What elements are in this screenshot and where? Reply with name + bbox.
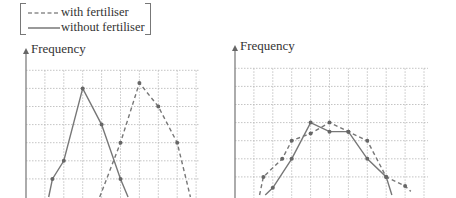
right-frequency-chart — [232, 45, 428, 198]
data-point-marker — [271, 186, 275, 190]
data-point-marker — [156, 105, 160, 109]
charts-canvas — [0, 0, 456, 198]
data-point-marker — [119, 177, 123, 181]
data-point-marker — [309, 121, 313, 125]
data-point-marker — [119, 141, 123, 145]
data-point-marker — [62, 159, 66, 163]
data-point-marker — [328, 130, 332, 134]
data-point-marker — [81, 86, 85, 90]
data-point-marker — [100, 123, 104, 127]
data-point-marker — [384, 175, 388, 179]
data-point-marker — [328, 121, 332, 125]
data-point-marker — [365, 157, 369, 161]
y-axis-arrow-icon — [23, 48, 29, 54]
data-point-marker — [309, 131, 313, 135]
data-point-marker — [290, 139, 294, 143]
data-point-marker — [365, 139, 369, 143]
data-point-marker — [175, 141, 179, 145]
data-point-marker — [50, 177, 54, 181]
data-point-marker — [137, 81, 141, 85]
data-point-marker — [280, 157, 284, 161]
left-frequency-chart — [23, 48, 200, 198]
data-point-marker — [403, 184, 407, 188]
data-point-marker — [290, 157, 294, 161]
y-axis-arrow-icon — [232, 45, 238, 51]
data-point-marker — [261, 175, 265, 179]
data-point-marker — [346, 130, 350, 134]
